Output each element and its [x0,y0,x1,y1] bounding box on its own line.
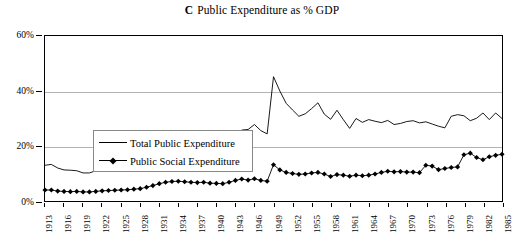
x-tick-label: 1979 [465,215,475,233]
plot-area: Total Public Expenditure Public Social E… [44,35,503,202]
x-tick-label: 1934 [178,215,188,233]
chart-figure: CPublic Expenditure as % GDP 0%20%40%60%… [0,0,524,247]
x-tick-mark [293,203,294,207]
legend: Total Public Expenditure Public Social E… [93,130,253,172]
data-point-marker [61,189,66,194]
x-tick-mark [312,203,313,207]
data-point-marker [442,166,447,171]
x-tick-label: 1928 [140,215,150,233]
data-point-marker [106,188,111,193]
data-point-marker [169,179,174,184]
data-point-marker [80,189,85,194]
data-point-marker [411,170,416,175]
data-point-marker [480,157,485,162]
data-point-marker [392,169,397,174]
panel-letter: C [185,4,193,16]
x-tick-mark [82,203,83,207]
x-tick-mark [235,203,236,207]
data-point-marker [163,180,168,185]
data-point-marker [487,154,492,159]
data-point-marker [372,171,377,176]
legend-label-total: Total Public Expenditure [128,138,235,149]
data-point-marker [239,176,244,181]
x-tick-label: 1955 [312,215,322,233]
x-tick-mark [274,203,275,207]
x-tick-mark [446,203,447,207]
y-tick-label: 20% [17,141,34,151]
data-point-marker [233,178,238,183]
data-point-marker [360,173,365,178]
data-point-marker [353,173,358,178]
data-point-marker [150,183,155,188]
data-point-marker [226,180,231,185]
data-point-marker [303,171,308,176]
x-tick-label: 1985 [503,215,513,233]
x-tick-label: 1970 [407,215,417,233]
x-tick-mark [101,203,102,207]
data-point-marker [398,169,403,174]
data-point-marker [265,179,270,184]
x-tick-mark [44,203,45,207]
data-point-marker [493,153,498,158]
data-point-marker [499,152,504,157]
data-point-marker [258,178,263,183]
y-axis: 0%20%40%60% [0,35,42,202]
data-point-marker [385,169,390,174]
data-point-marker [252,176,257,181]
data-point-marker [436,167,441,172]
x-tick-mark [140,203,141,207]
data-point-marker [188,180,193,185]
x-tick-mark [388,203,389,207]
data-point-marker [430,164,435,169]
data-point-marker [461,152,466,157]
x-tick-label: 1949 [274,215,284,233]
x-tick-label: 1931 [159,215,169,233]
x-tick-label: 1913 [44,215,54,233]
x-tick-mark [121,203,122,207]
x-tick-mark [331,203,332,207]
data-point-marker [296,172,301,177]
data-point-marker [290,171,295,176]
data-point-marker [334,172,339,177]
page-title: CPublic Expenditure as % GDP [0,4,524,16]
data-point-marker [144,185,149,190]
x-tick-label: 1922 [101,215,111,233]
chart-title-text: Public Expenditure as % GDP [197,4,339,16]
data-point-marker [220,181,225,186]
data-point-marker [49,187,54,192]
data-point-marker [315,170,320,175]
x-tick-mark [254,203,255,207]
x-tick-mark [178,203,179,207]
data-point-marker [322,171,327,176]
x-tick-mark [503,203,504,207]
x-tick-label: 1958 [331,215,341,233]
data-point-marker [379,170,384,175]
y-tick-mark [36,91,42,92]
x-tick-mark [159,203,160,207]
data-point-marker [449,165,454,170]
data-point-marker [347,174,352,179]
data-point-marker [201,180,206,185]
x-tick-label: 1961 [350,215,360,233]
data-point-marker [455,164,460,169]
data-point-marker [74,189,79,194]
data-point-marker [131,187,136,192]
data-point-marker [157,181,162,186]
data-point-marker [195,180,200,185]
data-series-layer [45,36,502,201]
y-tick-label: 0% [21,197,34,207]
data-point-marker [119,187,124,192]
x-tick-mark [216,203,217,207]
y-tick-mark [36,146,42,147]
x-tick-mark [63,203,64,207]
y-tick-label: 60% [17,30,34,40]
x-axis: 1913191619191922192519281931193419371940… [44,203,503,247]
data-point-marker [138,186,143,191]
x-tick-label: 1952 [293,215,303,233]
data-point-marker [309,170,314,175]
data-point-marker [341,173,346,178]
x-tick-label: 1976 [446,215,456,233]
line-swatch-icon [98,137,128,149]
data-point-marker [55,189,60,194]
data-point-marker [125,187,130,192]
